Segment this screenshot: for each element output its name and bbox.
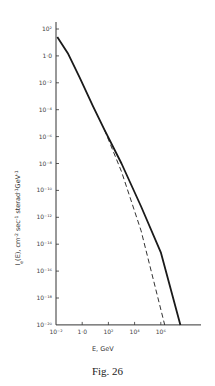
x-tick-label: 1·0 [77,328,87,335]
y-tick-label: 10⁻⁸ [39,160,53,167]
y-tick-label: 10⁻¹⁴ [36,240,52,247]
y-tick-label: 10⁻² [39,79,53,86]
x-axis-ticks: 10⁻²1·010²10⁴10⁶ [49,322,166,335]
chart: 10²1·010⁻²10⁻⁴10⁻⁶10⁻⁸10⁻¹⁰10⁻¹²10⁻¹⁴10⁻… [0,0,215,386]
y-tick-label: 10⁻¹⁸ [36,294,52,301]
y-tick-label: 10⁻⁶ [39,133,53,140]
y-axis-label: Ie(E), cm-2 sec-1 sterad-1GeV-1 [14,170,24,265]
axes [56,22,201,325]
y-tick-label: 10⁻²⁰ [36,321,52,328]
solid-curve [57,37,180,325]
y-tick-label: 10⁻¹² [36,213,52,220]
y-tick-label: 10² [42,25,53,32]
y-tick-label: 10⁻¹⁰ [36,186,52,193]
x-tick-label: 10² [103,328,114,335]
x-tick-label: 10⁴ [130,328,141,335]
curves [57,37,180,325]
x-tick-label: 10⁻² [49,328,63,335]
y-tick-label: 10⁻¹⁶ [36,267,52,274]
x-tick-label: 10⁶ [156,328,167,335]
dashed-curve [105,130,165,325]
y-tick-label: 10⁻⁴ [39,106,53,113]
y-tick-label: 1·0 [42,52,52,59]
figure-caption: Fig. 26 [0,365,215,377]
x-axis-label: E, GeV [92,345,114,353]
